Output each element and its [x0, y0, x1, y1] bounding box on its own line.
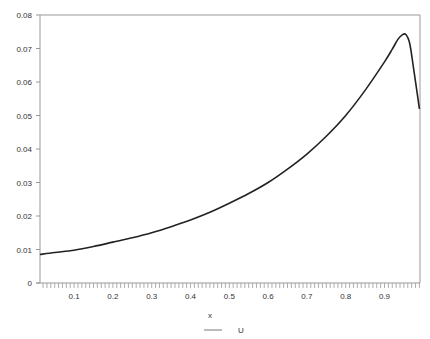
legend-series-label: U	[238, 326, 244, 335]
legend-x-label: x	[208, 311, 212, 320]
y-tick-label: 0.06	[16, 78, 32, 87]
axes	[36, 15, 420, 283]
x-tick-label: 0.2	[107, 292, 119, 301]
y-tick-label: 0	[28, 279, 33, 288]
tick-labels: 00.010.020.030.040.050.060.070.080.10.20…	[16, 11, 390, 301]
y-tick-label: 0.02	[16, 212, 32, 221]
x-tick-label: 0.7	[301, 292, 313, 301]
x-tick-label: 0.5	[224, 292, 236, 301]
x-tick-label: 0.1	[69, 292, 81, 301]
y-tick-label: 0.01	[16, 246, 32, 255]
y-tick-label: 0.04	[16, 145, 32, 154]
x-tick-label: 0.8	[340, 292, 352, 301]
x-tick-label: 0.9	[379, 292, 391, 301]
y-tick-label: 0.07	[16, 45, 32, 54]
series-line-u	[40, 34, 419, 255]
x-tick-label: 0.3	[146, 292, 158, 301]
y-tick-label: 0.03	[16, 179, 32, 188]
y-tick-label: 0.05	[16, 112, 32, 121]
x-tick-label: 0.4	[185, 292, 197, 301]
y-tick-label: 0.08	[16, 11, 32, 20]
x-tick-label: 0.6	[263, 292, 275, 301]
chart: 00.010.020.030.040.050.060.070.080.10.20…	[0, 0, 430, 339]
legend: x U	[204, 311, 244, 335]
